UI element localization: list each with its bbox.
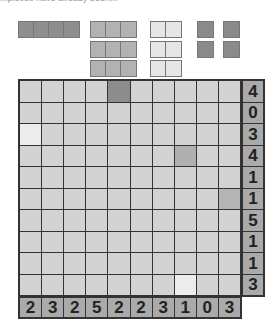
grid-cell-r9-c5[interactable] bbox=[131, 275, 152, 296]
grid-cell-r5-c9[interactable] bbox=[219, 189, 240, 210]
grid-cell-r5-c8[interactable] bbox=[197, 189, 218, 210]
grid-cell-r3-c6[interactable] bbox=[153, 146, 174, 167]
grid-cell-r8-c0[interactable] bbox=[20, 253, 41, 274]
grid-cell-r4-c2[interactable] bbox=[64, 167, 85, 188]
grid-cell-r0-c9[interactable] bbox=[219, 81, 240, 102]
grid-cell-r6-c0[interactable] bbox=[20, 210, 41, 231]
grid-cell-r4-c7[interactable] bbox=[175, 167, 196, 188]
grid-cell-r3-c2[interactable] bbox=[64, 146, 85, 167]
grid-cell-r3-c3[interactable] bbox=[86, 146, 107, 167]
grid-cell-r2-c4[interactable] bbox=[108, 124, 129, 145]
grid-cell-r6-c9[interactable] bbox=[219, 210, 240, 231]
grid-cell-r0-c4[interactable] bbox=[108, 81, 129, 102]
grid-cell-r1-c7[interactable] bbox=[175, 103, 196, 124]
grid-cell-r0-c1[interactable] bbox=[42, 81, 63, 102]
grid-cell-r8-c2[interactable] bbox=[64, 253, 85, 274]
grid-cell-r4-c0[interactable] bbox=[20, 167, 41, 188]
grid-cell-r1-c2[interactable] bbox=[64, 103, 85, 124]
grid-cell-r4-c1[interactable] bbox=[42, 167, 63, 188]
grid-cell-r8-c7[interactable] bbox=[175, 253, 196, 274]
grid-cell-r5-c2[interactable] bbox=[64, 189, 85, 210]
grid-cell-r4-c4[interactable] bbox=[108, 167, 129, 188]
grid-cell-r7-c0[interactable] bbox=[20, 232, 41, 253]
grid-cell-r0-c3[interactable] bbox=[86, 81, 107, 102]
grid-cell-r4-c9[interactable] bbox=[219, 167, 240, 188]
grid-cell-r3-c0[interactable] bbox=[20, 146, 41, 167]
grid-cell-r0-c5[interactable] bbox=[131, 81, 152, 102]
grid-cell-r3-c9[interactable] bbox=[219, 146, 240, 167]
grid-cell-r1-c4[interactable] bbox=[108, 103, 129, 124]
grid-cell-r5-c3[interactable] bbox=[86, 189, 107, 210]
grid-cell-r4-c8[interactable] bbox=[197, 167, 218, 188]
grid-cell-r2-c3[interactable] bbox=[86, 124, 107, 145]
grid-cell-r7-c9[interactable] bbox=[219, 232, 240, 253]
grid-cell-r5-c0[interactable] bbox=[20, 189, 41, 210]
grid-cell-r2-c2[interactable] bbox=[64, 124, 85, 145]
grid-cell-r7-c5[interactable] bbox=[131, 232, 152, 253]
grid-cell-r8-c5[interactable] bbox=[131, 253, 152, 274]
grid-cell-r1-c1[interactable] bbox=[42, 103, 63, 124]
grid-cell-r5-c5[interactable] bbox=[131, 189, 152, 210]
grid-cell-r9-c8[interactable] bbox=[197, 275, 218, 296]
grid-cell-r6-c2[interactable] bbox=[64, 210, 85, 231]
grid-cell-r1-c3[interactable] bbox=[86, 103, 107, 124]
grid-cell-r8-c4[interactable] bbox=[108, 253, 129, 274]
grid-cell-r9-c3[interactable] bbox=[86, 275, 107, 296]
grid-cell-r9-c1[interactable] bbox=[42, 275, 63, 296]
grid-cell-r5-c7[interactable] bbox=[175, 189, 196, 210]
grid-cell-r2-c9[interactable] bbox=[219, 124, 240, 145]
grid-cell-r0-c7[interactable] bbox=[175, 81, 196, 102]
grid-cell-r3-c1[interactable] bbox=[42, 146, 63, 167]
grid-cell-r3-c8[interactable] bbox=[197, 146, 218, 167]
grid-cell-r3-c7[interactable] bbox=[175, 146, 196, 167]
grid-cell-r0-c6[interactable] bbox=[153, 81, 174, 102]
grid-cell-r8-c3[interactable] bbox=[86, 253, 107, 274]
grid-cell-r9-c7[interactable] bbox=[175, 275, 196, 296]
grid-cell-r8-c6[interactable] bbox=[153, 253, 174, 274]
grid-cell-r2-c5[interactable] bbox=[131, 124, 152, 145]
grid-cell-r1-c5[interactable] bbox=[131, 103, 152, 124]
grid-cell-r7-c7[interactable] bbox=[175, 232, 196, 253]
grid-cell-r6-c6[interactable] bbox=[153, 210, 174, 231]
grid-cell-r5-c4[interactable] bbox=[108, 189, 129, 210]
grid-cell-r1-c9[interactable] bbox=[219, 103, 240, 124]
grid-cell-r9-c9[interactable] bbox=[219, 275, 240, 296]
grid-cell-r5-c6[interactable] bbox=[153, 189, 174, 210]
grid-cell-r6-c1[interactable] bbox=[42, 210, 63, 231]
puzzle-grid[interactable] bbox=[18, 79, 242, 297]
grid-cell-r8-c8[interactable] bbox=[197, 253, 218, 274]
grid-cell-r4-c6[interactable] bbox=[153, 167, 174, 188]
grid-cell-r4-c5[interactable] bbox=[131, 167, 152, 188]
grid-cell-r6-c3[interactable] bbox=[86, 210, 107, 231]
grid-cell-r0-c0[interactable] bbox=[20, 81, 41, 102]
grid-cell-r9-c6[interactable] bbox=[153, 275, 174, 296]
grid-cell-r4-c3[interactable] bbox=[86, 167, 107, 188]
grid-cell-r2-c0[interactable] bbox=[20, 124, 41, 145]
grid-cell-r2-c1[interactable] bbox=[42, 124, 63, 145]
grid-cell-r3-c5[interactable] bbox=[131, 146, 152, 167]
grid-cell-r0-c8[interactable] bbox=[197, 81, 218, 102]
grid-cell-r8-c1[interactable] bbox=[42, 253, 63, 274]
grid-cell-r7-c2[interactable] bbox=[64, 232, 85, 253]
grid-cell-r8-c9[interactable] bbox=[219, 253, 240, 274]
grid-cell-r6-c8[interactable] bbox=[197, 210, 218, 231]
grid-cell-r7-c4[interactable] bbox=[108, 232, 129, 253]
grid-cell-r2-c6[interactable] bbox=[153, 124, 174, 145]
grid-cell-r1-c0[interactable] bbox=[20, 103, 41, 124]
grid-cell-r7-c3[interactable] bbox=[86, 232, 107, 253]
grid-cell-r9-c2[interactable] bbox=[64, 275, 85, 296]
grid-cell-r5-c1[interactable] bbox=[42, 189, 63, 210]
grid-cell-r9-c0[interactable] bbox=[20, 275, 41, 296]
grid-cell-r7-c8[interactable] bbox=[197, 232, 218, 253]
grid-cell-r1-c8[interactable] bbox=[197, 103, 218, 124]
grid-cell-r2-c7[interactable] bbox=[175, 124, 196, 145]
grid-cell-r6-c7[interactable] bbox=[175, 210, 196, 231]
grid-cell-r3-c4[interactable] bbox=[108, 146, 129, 167]
grid-cell-r1-c6[interactable] bbox=[153, 103, 174, 124]
grid-cell-r9-c4[interactable] bbox=[108, 275, 129, 296]
grid-cell-r2-c8[interactable] bbox=[197, 124, 218, 145]
grid-cell-r7-c1[interactable] bbox=[42, 232, 63, 253]
grid-cell-r6-c4[interactable] bbox=[108, 210, 129, 231]
grid-cell-r7-c6[interactable] bbox=[153, 232, 174, 253]
grid-cell-r6-c5[interactable] bbox=[131, 210, 152, 231]
